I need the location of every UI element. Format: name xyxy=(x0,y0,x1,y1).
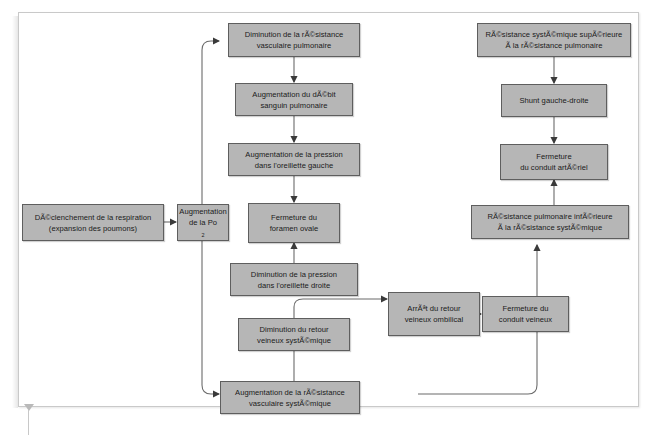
node-pvr-less-svr[interactable]: RÃ©sistance pulmonaire infÃ©rieure Ã la … xyxy=(471,205,629,239)
node-foramen-ovale-line1: Fermeture du xyxy=(270,212,319,223)
node-flow-up-line1: Augmentation du dÃ©bit xyxy=(252,89,335,100)
node-venous-return-down[interactable]: Diminution du retour veineux systÃ©mique xyxy=(238,318,350,351)
node-ra-pressure-down-line2: dans l'oreillette droite xyxy=(251,280,337,291)
node-pvr-down-line2: vasculaire pulmonaire xyxy=(245,40,344,51)
node-venous-return-down-line2: veineux systÃ©mique xyxy=(257,335,331,346)
node-svr-greater-pvr-line1: RÃ©sistance systÃ©mique supÃ©rieure xyxy=(486,29,623,40)
node-trigger-line1: DÃ©clenchement de la respiration xyxy=(35,212,152,223)
node-la-pressure-up-line1: Augmentation de la pression xyxy=(245,149,342,160)
node-po2-subscript: 2 xyxy=(201,232,204,238)
node-flow-up-line2: sanguin pulmonaire xyxy=(252,100,335,111)
node-ra-pressure-down[interactable]: Diminution de la pression dans l'oreille… xyxy=(230,263,358,296)
node-svr-up-line1: Augmentation de la rÃ©sistance xyxy=(235,387,345,398)
link-po2-to-svr xyxy=(202,240,219,394)
node-trigger-line2: (expansion des poumons) xyxy=(35,223,152,234)
node-la-pressure-up-line2: dans l'oreillette gauche xyxy=(245,160,342,171)
node-shunt[interactable]: Shunt gauche-droite xyxy=(501,84,607,117)
node-ductus-arteriosus-line1: Fermeture xyxy=(520,151,588,162)
link-po2-to-pvr xyxy=(202,41,219,204)
node-pvr-less-svr-line2: Ã la rÃ©sistance systÃ©mique xyxy=(487,222,612,233)
node-ductus-arteriosus[interactable]: Fermeture du conduit artÃ©riel xyxy=(500,144,608,180)
node-flow-up[interactable]: Augmentation du dÃ©bit sanguin pulmonair… xyxy=(235,83,353,116)
node-ductus-venosus-line1: Fermeture du xyxy=(499,303,552,314)
node-svr-greater-pvr-line2: Ã la rÃ©sistance pulmonaire xyxy=(486,40,623,51)
node-umbilical-arrest[interactable]: ArrÃªt du retour veineux ombilical xyxy=(388,292,480,336)
node-umbilical-arrest-line1: ArrÃªt du retour xyxy=(405,303,464,314)
node-ra-pressure-down-line1: Diminution de la pression xyxy=(251,269,337,280)
node-po2-line1: Augmentation xyxy=(179,206,226,217)
node-pvr-down[interactable]: Diminution de la rÃ©sistance vasculaire … xyxy=(228,23,360,57)
node-po2[interactable]: Augmentation de la Po2 xyxy=(177,204,229,241)
node-trigger[interactable]: DÃ©clenchement de la respiration (expans… xyxy=(22,204,164,241)
node-pvr-down-line1: Diminution de la rÃ©sistance xyxy=(245,29,344,40)
flowchart-canvas: DÃ©clenchement de la respiration (expans… xyxy=(0,0,656,437)
node-shunt-line1: Shunt gauche-droite xyxy=(519,95,588,106)
node-svr-up[interactable]: Augmentation de la rÃ©sistance vasculair… xyxy=(220,381,360,414)
node-ductus-venosus-line2: conduit veineux xyxy=(499,314,552,325)
node-foramen-ovale[interactable]: Fermeture du foramen ovale xyxy=(248,203,340,243)
node-venous-return-down-line1: Diminution du retour xyxy=(257,324,331,335)
node-la-pressure-up[interactable]: Augmentation de la pression dans l'oreil… xyxy=(228,143,360,176)
node-svr-up-line2: vasculaire systÃ©mique xyxy=(235,398,345,409)
node-ductus-arteriosus-line2: du conduit artÃ©riel xyxy=(520,162,588,173)
node-po2-line2: de la Po2 xyxy=(179,217,226,239)
node-svr-greater-pvr[interactable]: RÃ©sistance systÃ©mique supÃ©rieure Ã la… xyxy=(477,23,631,57)
node-pvr-less-svr-line1: RÃ©sistance pulmonaire infÃ©rieure xyxy=(487,211,612,222)
link-venous-to-umbilical xyxy=(294,299,387,318)
node-foramen-ovale-line2: foramen ovale xyxy=(270,223,319,234)
node-umbilical-arrest-line2: veineux ombilical xyxy=(405,314,464,325)
node-ductus-venosus[interactable]: Fermeture du conduit veineux xyxy=(482,296,569,332)
